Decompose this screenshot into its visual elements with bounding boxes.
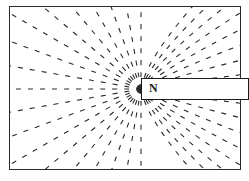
bar-magnet: N [141, 78, 249, 100]
field-diagram: N [0, 0, 249, 181]
north-pole-label: N [149, 81, 158, 96]
